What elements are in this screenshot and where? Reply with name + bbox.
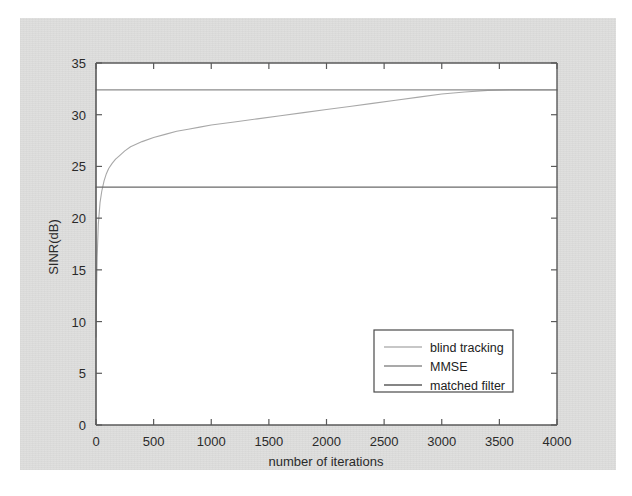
y-tick-label: 30 (72, 108, 86, 123)
y-tick-label: 15 (72, 263, 86, 278)
x-axis-title: number of iterations (269, 454, 384, 469)
x-tick-label: 3500 (485, 434, 514, 449)
y-tick-label: 35 (72, 56, 86, 71)
x-tick-label: 2000 (312, 434, 341, 449)
y-axis-title: SINR(dB) (46, 219, 61, 275)
y-tick-label: 25 (72, 159, 86, 174)
x-tick-label: 500 (143, 434, 165, 449)
chart-legend[interactable]: blind trackingMMSEmatched filter (374, 330, 513, 393)
y-tick-label: 5 (79, 366, 86, 381)
x-tick-label: 4000 (543, 434, 572, 449)
x-tick-label: 1000 (197, 434, 226, 449)
x-tick-label: 3000 (427, 434, 456, 449)
y-tick-label: 10 (72, 315, 86, 330)
x-tick-label: 2500 (370, 434, 399, 449)
x-tick-label: 0 (92, 434, 99, 449)
legend-label-matched-filter: matched filter (430, 379, 505, 393)
y-tick-label: 0 (79, 418, 86, 433)
legend-label-MMSE: MMSE (430, 360, 468, 374)
legend-label-blind-tracking: blind tracking (430, 341, 504, 355)
y-tick-label: 20 (72, 211, 86, 226)
x-tick-label: 1500 (254, 434, 283, 449)
figure-page: 0500100015002000250030003500400005101520… (0, 0, 632, 496)
sinr-convergence-chart: 0500100015002000250030003500400005101520… (0, 0, 632, 496)
